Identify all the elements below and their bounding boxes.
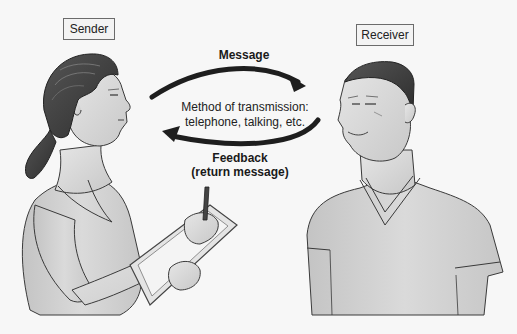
sender-label-box: Sender [63,18,115,40]
feedback-sublabel: (return message) [180,165,300,179]
message-arrow [152,69,306,97]
receiver-label: Receiver [361,28,408,42]
communication-diagram: Sender Receiver Message Method of transm… [0,0,517,334]
receiver-figure [307,62,503,315]
transmission-method-line1: Method of transmission: [170,100,320,115]
transmission-method-line2: telephone, talking, etc. [170,115,320,130]
message-label: Message [204,48,284,62]
sender-figure [22,54,237,315]
receiver-label-box: Receiver [356,24,414,46]
feedback-label: Feedback [190,151,290,165]
sender-label: Sender [70,22,109,36]
